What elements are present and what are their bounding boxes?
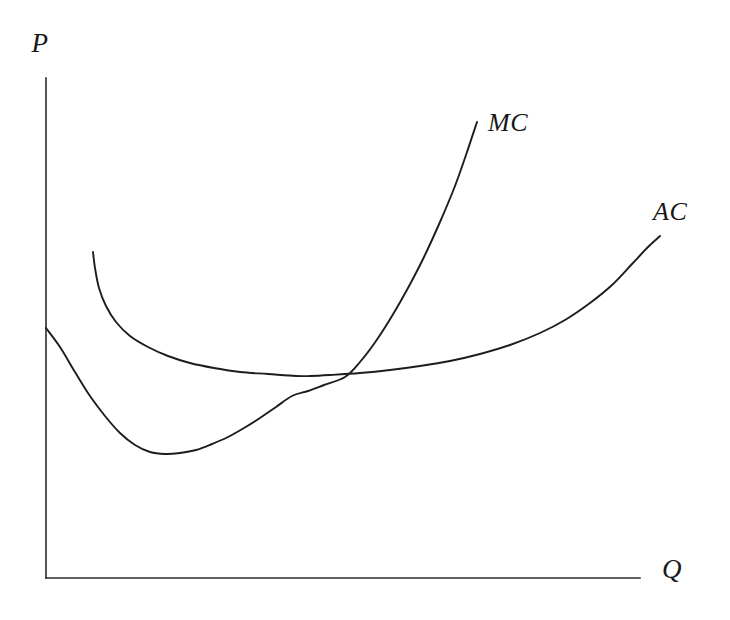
cost-curve-figure: P Q MC AC: [0, 0, 730, 620]
cost-curve-chart: P Q MC AC: [0, 0, 730, 620]
x-axis-label: Q: [662, 554, 682, 584]
y-axis-label: P: [31, 28, 49, 58]
mc-curve-label: MC: [487, 108, 528, 137]
ac-curve-label: AC: [651, 197, 687, 226]
chart-background: [0, 0, 730, 620]
